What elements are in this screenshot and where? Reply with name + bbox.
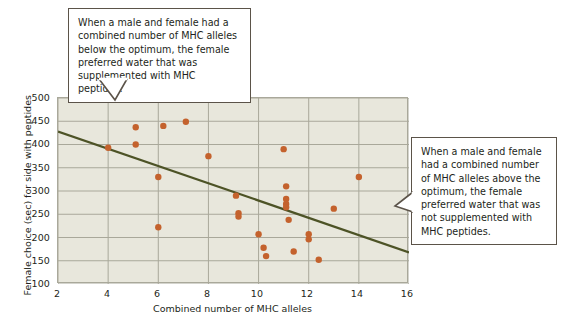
y-tick-250: 250 (22, 208, 50, 219)
x-tick-2: 2 (45, 288, 69, 299)
data-point (263, 253, 269, 259)
data-point (133, 141, 139, 147)
x-axis-title: Combined number of MHC alleles (57, 303, 408, 314)
y-tick-450: 450 (22, 115, 50, 126)
data-point (160, 123, 166, 129)
scatter-plot-svg (58, 98, 409, 284)
data-point (205, 153, 211, 159)
data-point (260, 245, 266, 251)
y-tick-200: 200 (22, 232, 50, 243)
data-point (155, 224, 161, 230)
callout-below-optimum: When a male and female had a combined nu… (68, 8, 251, 103)
callout-above-optimum: When a male and female had a combined nu… (411, 137, 557, 245)
callout-above-optimum-pointer (394, 191, 416, 217)
data-point (306, 236, 312, 242)
data-point (283, 183, 289, 189)
data-point (285, 217, 291, 223)
x-tick-14: 14 (345, 288, 369, 299)
figure-container: Female choice (sec) for side with peptid… (0, 0, 562, 323)
x-tick-12: 12 (295, 288, 319, 299)
y-tick-300: 300 (22, 185, 50, 196)
data-point (183, 119, 189, 125)
plot-area (57, 97, 408, 283)
data-point (290, 248, 296, 254)
x-tick-4: 4 (95, 288, 119, 299)
data-point (233, 192, 239, 198)
data-point (280, 146, 286, 152)
y-tick-500: 500 (22, 92, 50, 103)
data-point (155, 174, 161, 180)
data-point (283, 204, 289, 210)
data-point (133, 124, 139, 130)
data-point (105, 145, 111, 151)
data-point (235, 213, 241, 219)
data-point (356, 174, 362, 180)
x-tick-6: 6 (145, 288, 169, 299)
data-point (316, 257, 322, 263)
x-tick-10: 10 (245, 288, 269, 299)
callout-below-optimum-pointer (98, 78, 132, 102)
x-tick-8: 8 (195, 288, 219, 299)
y-tick-150: 150 (22, 255, 50, 266)
y-tick-400: 400 (22, 138, 50, 149)
y-tick-350: 350 (22, 162, 50, 173)
x-tick-16: 16 (395, 288, 419, 299)
data-point (331, 205, 337, 211)
data-point (255, 231, 261, 237)
